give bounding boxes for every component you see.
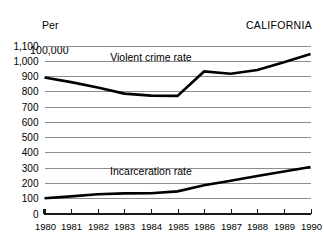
- x-axis-tick-label: 1989: [274, 221, 295, 232]
- chart-figure: Per 100,000 CALIFORNIA 01002003004005006…: [0, 0, 324, 248]
- series-group: [45, 54, 311, 198]
- y-axis-tick-label: 900: [22, 71, 39, 82]
- x-axis-tick-label: 1984: [141, 221, 162, 232]
- series-annotations: Violent crime rateIncarceration rate: [110, 51, 192, 177]
- x-axis-tick-label: 1988: [247, 221, 268, 232]
- y-axis-tick-label: 1,000: [13, 56, 38, 67]
- x-axis-tick-label: 1981: [61, 221, 82, 232]
- y-axis-tick-label: 200: [22, 178, 39, 189]
- x-axis-tick-label: 1980: [35, 221, 56, 232]
- y-axis-tick-label: 600: [22, 117, 39, 128]
- chart-plot: 01002003004005006007008009001,0001,100 1…: [0, 0, 324, 248]
- y-axis-tick-label: 700: [22, 102, 39, 113]
- x-axis-group: [44, 209, 312, 214]
- x-axis-tick-label: 1983: [114, 221, 135, 232]
- series-annotation-label: Incarceration rate: [110, 165, 192, 177]
- series-annotation-label: Violent crime rate: [110, 51, 192, 63]
- y-axis-tick-label: 100: [22, 193, 39, 204]
- x-axis-tick-label: 1986: [194, 221, 215, 232]
- x-axis-tick-label: 1990: [301, 221, 322, 232]
- y-axis-tick-label: 400: [22, 147, 39, 158]
- y-axis-tick-labels: 01002003004005006007008009001,0001,100: [13, 41, 38, 220]
- y-axis-tick-label: 800: [22, 86, 39, 97]
- x-axis-tick-label: 1985: [168, 221, 189, 232]
- y-axis-tick-label: 0: [33, 209, 39, 220]
- x-axis-tick-label: 1982: [88, 221, 109, 232]
- x-axis-tick-labels: 1980198119821983198419851986198719881989…: [35, 221, 322, 232]
- x-axis-tick-label: 1987: [221, 221, 242, 232]
- y-axis-tick-label: 1,100: [13, 41, 38, 52]
- y-axis-tick-label: 300: [22, 163, 39, 174]
- y-axis-tick-label: 500: [22, 132, 39, 143]
